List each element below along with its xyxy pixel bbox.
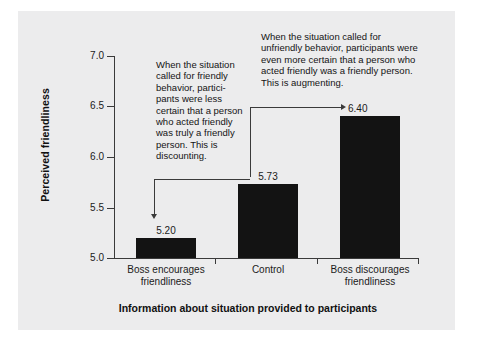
bar-value-label-2: 5.73 <box>238 171 298 182</box>
y-tick-7.0 <box>107 56 114 57</box>
bar-boss-encourages <box>136 238 196 258</box>
x-axis-title: Information about situation provided to … <box>78 302 418 314</box>
figure-panel: 7.0 6.5 6.0 5.5 5.0 Perceived friendline… <box>18 11 455 330</box>
y-tick-label-6.5: 6.5 <box>76 100 104 111</box>
bar-chart: 7.0 6.5 6.0 5.5 5.0 Perceived friendline… <box>18 11 455 330</box>
annotation-discounting: When the situation called for friendly b… <box>156 59 248 162</box>
x-category-label-1-line1: Boss encourages <box>127 264 204 275</box>
x-category-label-2-line1: Control <box>252 264 284 275</box>
y-tick-6.0 <box>107 157 114 158</box>
bar-value-label-3: 6.40 <box>348 103 388 114</box>
y-tick-label-6.0: 6.0 <box>76 151 104 162</box>
connector-discounting-horizontal <box>154 179 250 180</box>
y-tick-5.5 <box>107 208 114 209</box>
arrowhead-augmenting <box>341 104 346 110</box>
y-tick-label-5.0: 5.0 <box>76 252 104 263</box>
connector-augmenting-horizontal <box>250 107 342 108</box>
annotation-augmenting: When the situation called for unfriendly… <box>261 31 421 88</box>
x-category-label-1-line2: friendliness <box>141 276 192 287</box>
x-category-label-3-line2: friendliness <box>345 276 396 287</box>
bar-boss-discourages <box>340 116 400 258</box>
connector-discounting-vertical <box>154 179 155 215</box>
y-tick-label-7.0: 7.0 <box>76 50 104 61</box>
bar-value-label-1: 5.20 <box>136 225 196 236</box>
connector-augmenting-vertical <box>250 107 251 177</box>
y-axis-title: Perceived friendliness <box>39 60 51 230</box>
y-tick-6.5 <box>107 106 114 107</box>
y-tick-5.0 <box>107 258 114 259</box>
x-category-label-3: Boss discourages friendliness <box>310 264 430 287</box>
arrowhead-discounting <box>151 214 157 219</box>
x-axis-line <box>114 258 419 259</box>
y-axis-line <box>114 56 115 259</box>
y-tick-label-5.5: 5.5 <box>76 202 104 213</box>
x-category-label-3-line1: Boss discourages <box>331 264 410 275</box>
bar-control <box>238 184 298 258</box>
